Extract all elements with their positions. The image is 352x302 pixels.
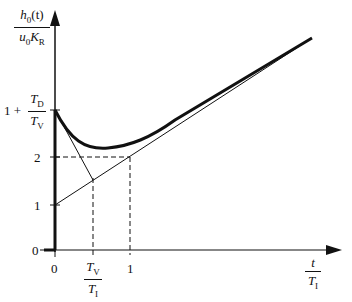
x-axis-arrow-icon: [326, 245, 342, 255]
asymptote-line: [55, 38, 312, 205]
y-tick-1: 1: [34, 199, 41, 212]
y-axis-label: h0(t) u0KR: [14, 8, 50, 46]
x-tick-1: 1: [127, 262, 134, 275]
y-tick-3-frac: TD TV: [28, 92, 46, 130]
diagram-canvas: [0, 0, 352, 302]
y-tick-3-prefix: 1 +: [4, 104, 21, 117]
y-axis-arrow-icon: [50, 10, 60, 26]
y-tick-2: 2: [34, 151, 41, 164]
x-tick-tv: TV TI: [84, 260, 102, 298]
response-curve: [55, 38, 312, 148]
y-tick-0: 0: [32, 244, 39, 257]
x-tick-0: 0: [51, 262, 58, 275]
x-axis-label: t TI: [305, 256, 321, 291]
